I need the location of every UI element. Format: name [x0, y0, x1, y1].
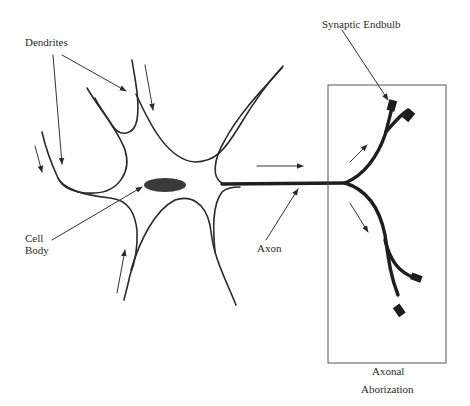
- nucleus: [144, 178, 186, 192]
- axonal-aborization-label-line1: Axonal: [372, 365, 404, 377]
- neuron-illustration: [0, 0, 470, 406]
- axon-label: Axon: [257, 242, 281, 254]
- label-pointers: [52, 30, 388, 240]
- neuron-diagram: Dendrites Synaptic Endbulb Cell Body Axo…: [0, 0, 470, 406]
- cell-body-label-line2: Body: [25, 244, 49, 256]
- dendrites-label: Dendrites: [25, 36, 68, 48]
- synaptic-endbulb-label: Synaptic Endbulb: [322, 18, 401, 30]
- axon-branches: [345, 108, 415, 295]
- synaptic-endbulbs: [387, 99, 423, 317]
- signal-arrows: [35, 65, 368, 293]
- axonal-aborization-label-line2: Aborization: [361, 383, 414, 395]
- cell-body-label-line1: Cell: [25, 232, 43, 244]
- axon: [222, 183, 345, 184]
